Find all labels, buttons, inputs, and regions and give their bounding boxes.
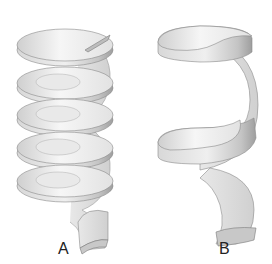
spiral-b-flight-1 — [158, 26, 252, 62]
spiral-b-flight-2 — [158, 118, 256, 164]
spiral-a — [17, 29, 113, 254]
spiral-a-flight-3 — [17, 99, 113, 136]
panel-label-b: B — [219, 240, 230, 258]
spiral-a-flight-2 — [17, 67, 113, 104]
diagram-canvas — [0, 0, 272, 264]
spiral-a-flight-1 — [17, 29, 113, 66]
panel-label-a: A — [58, 240, 69, 258]
spiral-a-flight-4 — [17, 132, 113, 169]
spiral-a-flight-5 — [17, 165, 113, 202]
spiral-b — [158, 26, 258, 246]
